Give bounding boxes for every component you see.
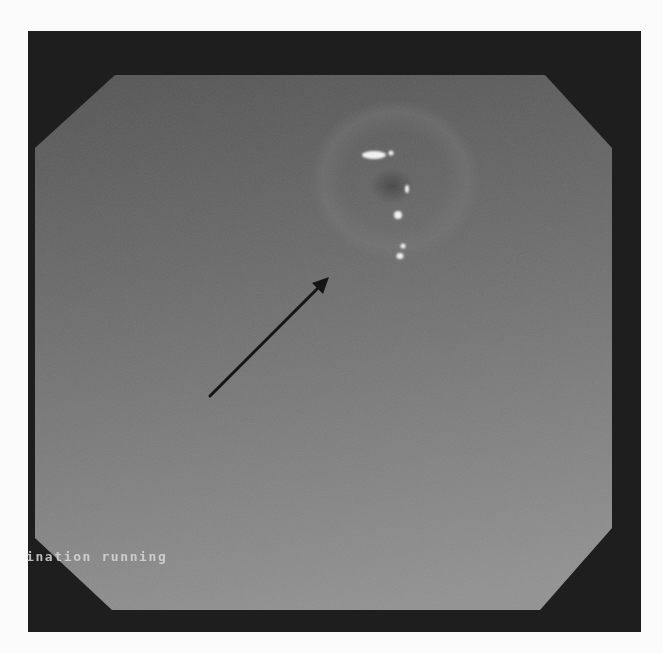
overlay-status-text: ination running: [26, 549, 167, 564]
